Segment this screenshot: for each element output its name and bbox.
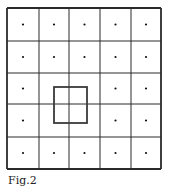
grid-dot xyxy=(145,23,147,25)
grid-dot xyxy=(22,56,24,58)
grid-dot xyxy=(83,152,85,154)
grid-dot xyxy=(114,119,116,121)
grid-dot xyxy=(145,87,147,89)
grid-dot xyxy=(22,119,24,121)
grid-dot xyxy=(53,152,55,154)
grid-dot xyxy=(53,56,55,58)
grid-dot xyxy=(145,56,147,58)
grid-dot xyxy=(22,23,24,25)
highlight-square xyxy=(54,87,87,123)
grid-dot xyxy=(22,152,24,154)
grid-dot xyxy=(83,56,85,58)
grid-dot xyxy=(114,152,116,154)
grid-dot xyxy=(114,56,116,58)
grid-dot xyxy=(114,23,116,25)
grid-dot xyxy=(22,87,24,89)
grid-dot xyxy=(145,152,147,154)
grid-dot xyxy=(145,119,147,121)
grid-dot xyxy=(53,23,55,25)
grid-dot xyxy=(114,87,116,89)
figure-caption: Fig.2 xyxy=(8,174,37,187)
grid-figure xyxy=(0,0,173,170)
grid-dot xyxy=(83,23,85,25)
